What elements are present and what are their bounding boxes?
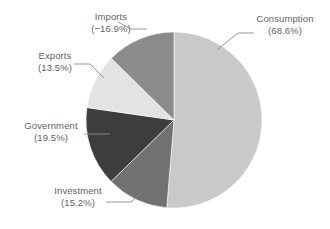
pie-slice-consumption[interactable] — [167, 32, 262, 208]
slice-label-government-name: Government — [8, 120, 94, 132]
slice-label-exports: Exports (13.5%) — [20, 50, 90, 73]
slice-label-imports-value: (−16.9%) — [74, 23, 148, 35]
slice-label-imports: Imports (−16.9%) — [74, 11, 148, 34]
slice-label-investment-value: (15.2%) — [38, 197, 118, 209]
slice-label-consumption-name: Consumption — [243, 13, 327, 25]
slice-label-imports-name: Imports — [74, 11, 148, 23]
slice-label-government-value: (19.5%) — [8, 132, 94, 144]
slice-label-exports-name: Exports — [20, 50, 90, 62]
pie-slice-group — [86, 32, 262, 208]
slice-label-consumption: Consumption (68.6%) — [243, 13, 327, 36]
slice-label-exports-value: (13.5%) — [20, 62, 90, 74]
pie-chart: Imports (−16.9%) Exports (13.5%) Governm… — [0, 0, 330, 229]
slice-label-government: Government (19.5%) — [8, 120, 94, 143]
slice-label-consumption-value: (68.6%) — [243, 25, 327, 37]
leader-line-consumption-2 — [218, 33, 238, 49]
slice-label-investment: Investment (15.2%) — [38, 185, 118, 208]
slice-label-investment-name: Investment — [38, 185, 118, 197]
